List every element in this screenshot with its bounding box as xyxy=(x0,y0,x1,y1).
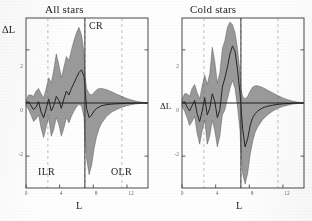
plot-area-all-stars xyxy=(0,0,160,221)
panel-all-stars: All stars ΔL L CR ILR OLR 0 4 8 12 2 0 -… xyxy=(0,0,160,221)
panel-cold-stars: Cold stars ΔL L 0 4 8 12 2 0 -2 xyxy=(160,0,312,221)
plot-area-cold-stars xyxy=(160,0,312,221)
figure-root: All stars ΔL L CR ILR OLR 0 4 8 12 2 0 -… xyxy=(0,0,312,221)
